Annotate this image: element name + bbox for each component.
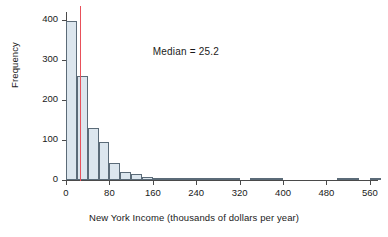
histogram-bar	[120, 172, 131, 180]
histogram-bar	[207, 178, 218, 180]
histogram-bar	[109, 163, 120, 180]
histogram-bar	[337, 178, 348, 180]
x-axis-tick-label: 240	[176, 187, 216, 198]
x-axis-title: New York Income (thousands of dollars pe…	[0, 212, 388, 223]
y-axis-tick-label: 100	[16, 134, 58, 144]
x-axis-tick	[196, 181, 197, 185]
x-axis-tick	[66, 181, 67, 185]
x-axis-tick-label: 400	[263, 187, 303, 198]
median-line-marker	[80, 6, 81, 181]
histogram-bar	[131, 174, 142, 180]
x-axis-tick	[109, 181, 110, 185]
x-axis-tick	[240, 181, 241, 185]
x-axis-line	[66, 180, 378, 181]
histogram-bar	[261, 178, 272, 180]
histogram-bar	[196, 178, 207, 180]
histogram-bar	[142, 177, 153, 180]
histogram-bar	[164, 178, 175, 180]
histogram-bar	[370, 178, 381, 180]
x-axis-tick-label: 160	[133, 187, 173, 198]
y-axis-tick-label: 300	[16, 54, 58, 64]
median-annotation-label: Median = 25.2	[153, 46, 219, 57]
x-axis-tick-label: 560	[350, 187, 388, 198]
y-axis-tick-label: 400	[16, 14, 58, 24]
y-axis-tick-label: 200	[16, 94, 58, 104]
histogram-bar	[77, 76, 88, 180]
x-axis-tick	[153, 181, 154, 185]
histogram-bar	[348, 178, 359, 180]
histogram-bar	[66, 21, 77, 180]
histogram-bar	[250, 178, 261, 180]
x-axis-tick-label: 80	[89, 187, 129, 198]
x-axis-tick-label: 0	[46, 187, 86, 198]
histogram-bar	[175, 178, 186, 180]
histogram-bar	[153, 178, 164, 180]
histogram-bar	[218, 178, 229, 180]
x-axis-tick-label: 480	[306, 187, 346, 198]
histogram-bar	[99, 142, 110, 180]
histogram-bars	[66, 12, 378, 180]
histogram-bar	[185, 178, 196, 180]
x-axis-tick	[283, 181, 284, 185]
histogram-figure: Frequency 0100200300400 0801602403204004…	[0, 0, 388, 237]
x-axis-tick	[370, 181, 371, 185]
histogram-bar	[272, 178, 283, 180]
x-axis-tick	[326, 181, 327, 185]
y-axis-tick-label: 0	[16, 174, 58, 184]
histogram-bar	[229, 178, 240, 180]
x-axis-tick-label: 320	[220, 187, 260, 198]
histogram-bar	[88, 128, 99, 180]
